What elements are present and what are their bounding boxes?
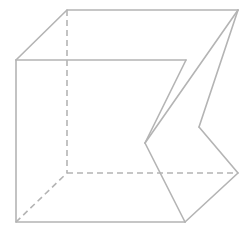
edge-fold-1: [145, 60, 186, 143]
edge-top-left: [16, 10, 67, 60]
edge-fold-2: [145, 10, 238, 143]
edge-fold-5: [145, 143, 185, 222]
hidden-edge-bottom-left: [16, 173, 67, 222]
cube-diagram: [0, 0, 244, 226]
edge-fold-4: [199, 127, 238, 173]
edge-fold-3: [199, 10, 238, 127]
edge-fold-6: [185, 173, 238, 222]
